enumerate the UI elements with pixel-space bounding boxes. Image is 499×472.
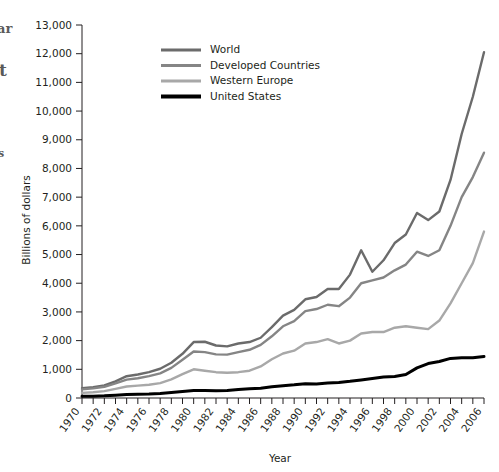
x-tick-label: 2002 (414, 405, 439, 434)
y-tick-label: 2,000 (42, 334, 72, 346)
x-tick-label: 1998 (369, 405, 394, 434)
x-tick-label: 1970 (56, 405, 81, 434)
y-tick-label: 7,000 (42, 191, 72, 203)
y-tick-label: 10,000 (35, 105, 72, 117)
series-line (82, 232, 484, 393)
x-tick-label: 1974 (101, 405, 126, 434)
x-tick-label: 2006 (458, 405, 483, 434)
x-tick-label: 1978 (146, 405, 171, 434)
y-tick-label: 3,000 (42, 306, 72, 318)
series-line (82, 52, 484, 388)
y-tick-label: 5,000 (42, 248, 72, 260)
y-tick-label: 11,000 (35, 76, 72, 88)
x-axis-ticks: 1970197219741976197819801982198419861988… (56, 398, 484, 434)
x-tick-label: 1990 (280, 405, 305, 434)
line-chart: 01,0002,0003,0004,0005,0006,0007,0008,00… (0, 0, 499, 472)
legend-label: United States (210, 90, 281, 102)
y-tick-label: 0 (65, 392, 72, 404)
x-tick-label: 1980 (168, 405, 193, 434)
chart-legend: WorldDeveloped CountriesWestern EuropeUn… (161, 43, 320, 102)
x-tick-label: 1992 (302, 405, 327, 434)
x-tick-label: 1994 (324, 405, 349, 434)
y-tick-label: 1,000 (42, 363, 72, 375)
y-tick-label: 8,000 (42, 162, 72, 174)
x-tick-label: 2000 (391, 405, 416, 434)
x-tick-label: 2004 (436, 405, 461, 434)
x-tick-label: 1982 (190, 405, 215, 434)
legend-label: Developed Countries (210, 59, 320, 71)
x-tick-label: 1976 (123, 405, 148, 434)
y-tick-label: 4,000 (42, 277, 72, 289)
x-tick-label: 1986 (235, 405, 260, 434)
y-tick-label: 13,000 (35, 19, 72, 31)
data-series-group (82, 52, 484, 396)
x-tick-label: 1984 (213, 405, 238, 434)
legend-label: Western Europe (210, 74, 293, 86)
y-tick-label: 6,000 (42, 220, 72, 232)
legend-label: World (210, 43, 240, 55)
x-tick-label: 1988 (257, 405, 282, 434)
x-axis-title: Year (268, 452, 292, 464)
y-axis-ticks: 01,0002,0003,0004,0005,0006,0007,0008,00… (35, 19, 82, 404)
y-axis-title: Billions of dollars (20, 175, 32, 264)
x-tick-label: 1972 (79, 405, 104, 434)
y-tick-label: 12,000 (35, 47, 72, 59)
x-tick-label: 1996 (347, 405, 372, 434)
y-tick-label: 9,000 (42, 133, 72, 145)
chart-container: ar t s 01,0002,0003,0004,0005,0006,0007,… (0, 0, 499, 472)
